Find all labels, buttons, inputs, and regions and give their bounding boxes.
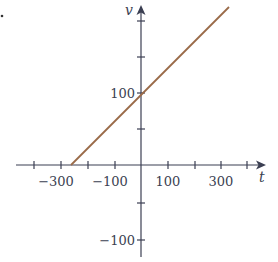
y-tick-label: −100 [99, 233, 135, 248]
stray-mark [1, 15, 4, 18]
y-axis-label: v [125, 2, 133, 18]
x-tick-label: 300 [209, 174, 234, 189]
x-tick-label: −100 [92, 174, 128, 189]
y-tick-label: 100 [110, 86, 135, 101]
x-axis-label: t [259, 169, 265, 185]
x-tick-label: 100 [156, 174, 181, 189]
x-tick-label: −300 [38, 174, 74, 189]
series-line [71, 7, 229, 165]
chart: −300 −100 100 300 t 100 −100 v [0, 0, 278, 262]
